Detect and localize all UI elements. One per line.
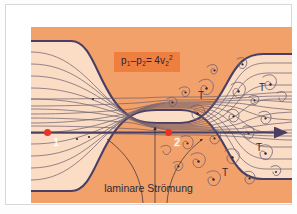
figure-caption: laminare Strömung: [0, 182, 297, 194]
formula-rhs-sub: 2: [165, 60, 169, 67]
point-1-label: 1: [53, 137, 59, 148]
turbulence-label-4: T: [222, 168, 228, 178]
formula-rhs: 4v: [154, 55, 165, 66]
formula-equals: =: [146, 55, 152, 66]
point-1-marker: [44, 129, 51, 136]
figure-page: p1–p2= 4v22 1 2 T T T T laminare Strömun…: [0, 0, 297, 214]
point-2-marker: [165, 129, 172, 136]
turbulence-label-2: T: [259, 83, 265, 93]
formula-box: p1–p2= 4v22: [114, 52, 180, 72]
turbulence-label-1: T: [198, 91, 204, 101]
flow-diagram: p1–p2= 4v22: [31, 27, 292, 203]
figure-mat: p1–p2= 4v22 1 2 T T T T: [13, 11, 284, 197]
formula-rhs-sup: 2: [169, 54, 173, 61]
point-2-label: 2: [174, 137, 180, 148]
turbulence-label-3: T: [256, 143, 262, 153]
